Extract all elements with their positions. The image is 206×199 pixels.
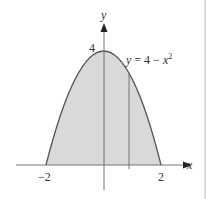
y-tick-4: 4 [89,41,95,55]
y-axis-arrow-icon [101,23,108,32]
x-tick-neg2: −2 [38,170,51,184]
parabola-diagram: y x 4 −2 2 y = 4 − x2 [0,0,206,199]
x-axis-label: x [186,158,193,172]
y-axis-label: y [100,8,107,22]
equation-label: y = 4 − x2 [125,52,172,67]
x-tick-2: 2 [158,170,164,184]
